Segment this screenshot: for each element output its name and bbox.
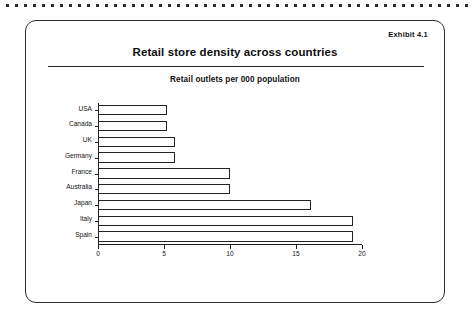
category-label: Canada [69, 120, 92, 127]
category-label: UK [83, 136, 92, 143]
bar-row: Spain [98, 229, 362, 245]
x-tick-mark [296, 245, 297, 249]
bar-row: Canada [98, 119, 362, 135]
dotted-scan-line [6, 4, 468, 7]
x-tick-mark [362, 245, 363, 249]
category-label: Germany [65, 152, 92, 159]
category-label: USA [78, 105, 92, 112]
x-tick-label: 5 [162, 250, 166, 257]
bar [98, 168, 230, 178]
bar-row: Japan [98, 198, 362, 214]
page-title: Retail store density across countries [26, 46, 444, 58]
category-label: Australia [66, 183, 92, 190]
x-tick-label: 10 [226, 250, 233, 257]
x-tick-mark [230, 245, 231, 249]
bar [98, 184, 230, 194]
bar-row: Germany [98, 150, 362, 166]
bar-series: USACanadaUKGermanyFranceAustraliaJapanIt… [98, 103, 362, 245]
x-tick-mark [98, 245, 99, 249]
bar [98, 105, 167, 115]
bar [98, 137, 175, 147]
bar [98, 200, 311, 210]
bar [98, 231, 353, 241]
exhibit-card: Exhibit 4.1 Retail store density across … [25, 20, 445, 303]
bar-row: UK [98, 135, 362, 151]
bar [98, 152, 175, 162]
category-label: Italy [80, 215, 92, 222]
bar-row: Australia [98, 182, 362, 198]
bar-row: USA [98, 103, 362, 119]
x-tick-mark [164, 245, 165, 249]
x-tick-label: 15 [292, 250, 299, 257]
category-label: France [71, 168, 92, 175]
exhibit-number-label: Exhibit 4.1 [388, 30, 428, 39]
bar-row: Italy [98, 213, 362, 229]
category-label: Japan [74, 199, 92, 206]
bar [98, 216, 353, 226]
title-divider [48, 66, 424, 67]
bar-row: France [98, 166, 362, 182]
bar-chart-plot-area: USACanadaUKGermanyFranceAustraliaJapanIt… [98, 103, 362, 245]
category-label: Spain [75, 231, 92, 238]
bar [98, 121, 167, 131]
x-tick-label: 20 [358, 250, 365, 257]
chart-subtitle: Retail outlets per 000 population [26, 75, 444, 84]
x-tick-label: 0 [96, 250, 100, 257]
